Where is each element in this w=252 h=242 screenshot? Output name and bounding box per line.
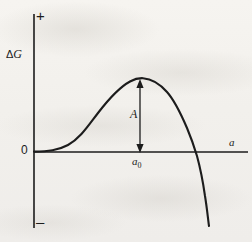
plot-area (0, 0, 252, 242)
barrier-arrow-head-up (136, 79, 143, 88)
critical-size-label: a0 (132, 156, 142, 170)
free-energy-diagram: + – ΔG 0 a a0 A (0, 0, 252, 242)
y-axis-negative-sign: – (36, 214, 44, 229)
origin-label: 0 (21, 144, 28, 156)
y-axis-label-text: G (13, 47, 22, 61)
x-axis-label: a (229, 137, 235, 148)
activation-barrier-label: A (130, 108, 137, 120)
critical-size-subscript: 0 (138, 161, 142, 170)
y-axis-label: ΔG (6, 48, 22, 60)
y-axis-positive-sign: + (36, 8, 45, 23)
